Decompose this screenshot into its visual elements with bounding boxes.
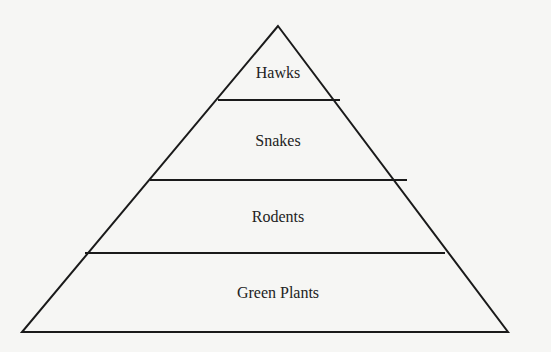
level-label-snakes: Snakes (255, 132, 300, 149)
level-label-green-plants: Green Plants (237, 284, 319, 301)
level-label-hawks: Hawks (256, 64, 300, 81)
level-label-rodents: Rodents (252, 208, 304, 225)
food-pyramid-diagram: Hawks Snakes Rodents Green Plants (0, 0, 551, 352)
